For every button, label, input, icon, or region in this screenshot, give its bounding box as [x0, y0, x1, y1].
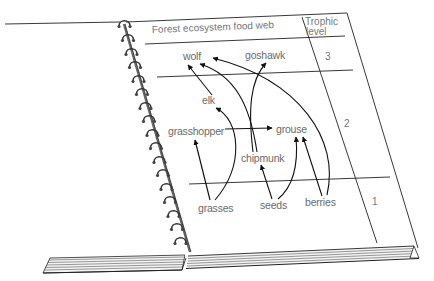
trophic-level-1: 1 — [372, 196, 378, 207]
node-wolf: wolf — [182, 50, 201, 62]
food-web-notebook-illustration: Forest ecosystem food web Trophic level … — [0, 0, 434, 281]
column-header-line2: level — [306, 26, 327, 37]
left-page-stack — [43, 255, 185, 273]
node-seeds: seeds — [260, 199, 287, 211]
node-chipmunk: chipmunk — [241, 152, 285, 164]
trophic-level-3: 3 — [325, 51, 331, 62]
node-grasshopper: grasshopper — [168, 125, 225, 137]
right-page: Forest ecosystem food web Trophic level … — [120, 13, 419, 270]
node-grouse: grouse — [276, 123, 307, 135]
node-berries: berries — [305, 196, 336, 208]
node-grasses: grasses — [198, 202, 233, 214]
node-goshawk: goshawk — [245, 49, 286, 61]
node-elk: elk — [202, 94, 216, 106]
trophic-level-2: 2 — [344, 118, 350, 129]
